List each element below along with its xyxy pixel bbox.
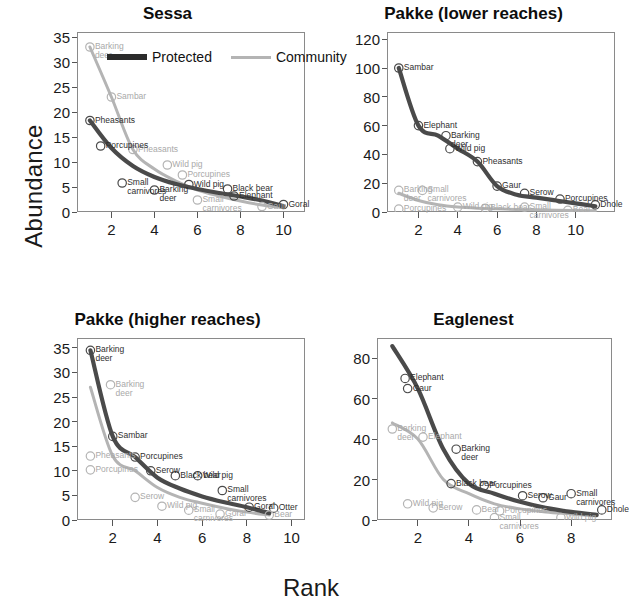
data-point-marker [218,486,226,494]
data-point-marker [518,492,526,500]
data-point-marker [163,161,171,169]
legend-swatch-protected [107,54,147,60]
data-point-marker [539,494,547,502]
data-point-marker [86,452,94,460]
data-point-marker [418,186,426,194]
legend-label-protected: Protected [152,49,212,65]
series-layer [20,310,315,565]
data-point-marker [171,472,179,480]
series-layer [20,4,315,254]
series-layer [325,310,622,565]
series-line-protected [392,346,596,515]
data-point-marker [194,472,202,480]
data-point-marker [150,186,158,194]
series-line-protected [399,68,596,206]
data-point-marker [388,425,396,433]
series-line-protected [90,350,269,513]
data-point-marker [401,374,409,382]
series-line-community [90,387,269,515]
panel-pakke-higher-reaches: Pakke (higher reaches)051015202530352468… [20,310,315,565]
legend-swatch-community [231,56,271,59]
data-point-marker [106,381,114,389]
data-point-marker [419,433,427,441]
series-line-community [392,423,596,516]
data-point-marker [185,506,193,514]
data-point-marker [395,205,403,213]
data-point-marker [403,384,411,392]
x-axis-label: Rank [0,574,622,602]
data-point-marker [403,500,411,508]
data-point-marker [598,506,606,514]
data-point-marker [86,466,94,474]
data-point-marker [118,179,126,187]
data-point-marker [216,510,224,518]
data-point-marker [131,493,139,501]
data-point-marker [490,513,498,521]
data-point-marker [472,506,480,514]
data-point-marker [429,504,437,512]
data-point-marker [567,490,575,498]
data-point-marker [96,142,104,150]
data-point-marker [452,445,460,453]
data-point-marker [178,171,186,179]
series-layer [325,4,622,254]
panel-sessa: Sessa05101520253035246810Barking deerSam… [20,4,315,254]
data-point-marker [223,185,231,193]
data-point-marker [193,196,201,204]
data-point-marker [158,502,166,510]
series-line-community [90,47,284,208]
data-point-marker [480,481,488,489]
panel-pakke-lower-reaches: Pakke (lower reaches)0204060801001202468… [325,4,622,254]
series-line-protected [90,121,284,207]
panel-eaglenest: Eaglenest0204060802468ElephantGaurBarkin… [325,310,622,565]
legend: ProtectedCommunity [107,49,347,65]
